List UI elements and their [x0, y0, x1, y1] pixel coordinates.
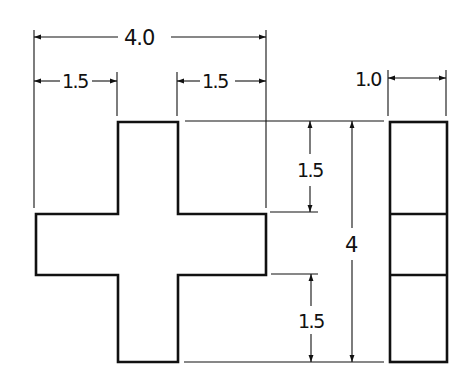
dim-label-bottom-arm-height: 1.5 [298, 310, 324, 332]
front-view-cross [36, 122, 266, 362]
dim-overall-height: 4 [345, 121, 358, 362]
dim-side-thickness: 1.0 [355, 68, 446, 90]
dim-top-arm-height: 1.5 [297, 121, 323, 212]
side-view [390, 122, 447, 362]
side-view-outline [390, 122, 447, 362]
dim-label-side-thickness: 1.0 [355, 68, 381, 90]
dim-label-overall-height: 4 [345, 233, 358, 257]
dim-label-overall-width: 4.0 [124, 26, 154, 50]
dim-bottom-arm-height: 1.5 [298, 274, 324, 362]
dim-right-arm-width: 1.5 [177, 70, 266, 92]
dim-label-top-arm-height: 1.5 [297, 159, 323, 181]
extension-lines [34, 30, 446, 362]
dim-label-left-arm-width: 1.5 [62, 70, 88, 92]
dim-overall-width: 4.0 [34, 26, 266, 50]
dim-left-arm-width: 1.5 [34, 70, 117, 92]
dim-label-right-arm-width: 1.5 [202, 70, 228, 92]
technical-drawing: 4.0 1.5 1.5 1.0 1.5 1.5 4 [0, 0, 473, 386]
